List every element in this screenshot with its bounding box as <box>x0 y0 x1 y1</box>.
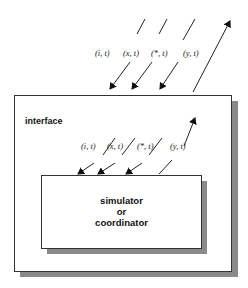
external-port-label-y: (y, t) <box>183 48 199 58</box>
internal-port-label-y: (y, t) <box>170 141 186 151</box>
internal-port-label-x: (x, t) <box>107 141 123 151</box>
external-port-label-i: (i, t) <box>95 48 110 58</box>
external-port-label-star: (*, t) <box>151 48 168 58</box>
internal-port-label-star: (*, t) <box>137 141 154 151</box>
internal-port-label-i: (i, t) <box>81 141 96 151</box>
diagram-canvas: interface simulator or coordinator <box>0 0 248 288</box>
arrows-layer <box>0 0 248 288</box>
external-port-label-x: (x, t) <box>123 48 139 58</box>
